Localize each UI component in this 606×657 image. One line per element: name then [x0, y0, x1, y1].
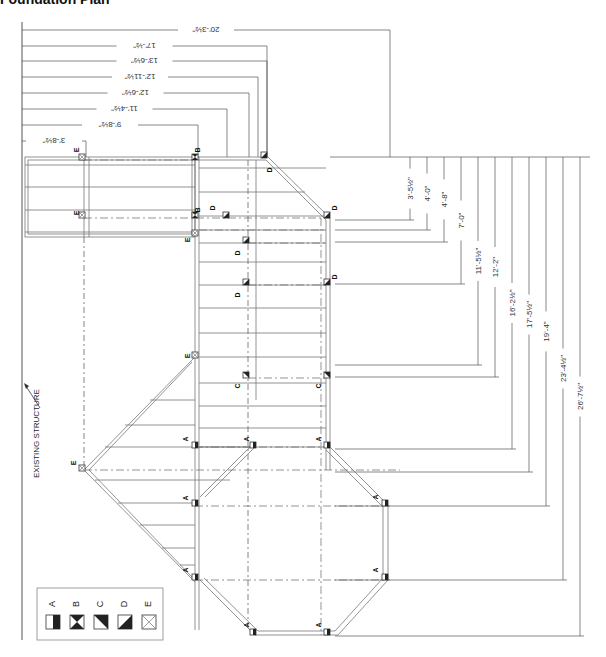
post-type-label: D	[209, 205, 216, 210]
post-A-icon	[192, 442, 198, 448]
dimension-label: 3'-5½"	[406, 177, 415, 200]
post-C-icon	[324, 372, 330, 378]
post-type-label: D	[266, 167, 273, 172]
post-A-icon	[324, 442, 330, 448]
dimension-label: 3'-8½"	[43, 136, 66, 145]
post-type-label: E	[73, 210, 80, 215]
post-D-icon	[243, 279, 249, 285]
dimension-label: 20'-3½"	[192, 25, 219, 34]
right-dimension: 23'-4½"	[335, 157, 568, 580]
post-B-icon	[70, 615, 84, 629]
post-A-icon	[250, 629, 256, 635]
post-E-icon	[142, 615, 156, 629]
post-type-label: A	[315, 436, 322, 441]
post-type-label: A	[372, 567, 379, 572]
dimension-label: 7'-0"	[457, 212, 466, 228]
dimension-label: 4'-0"	[423, 185, 432, 201]
post-A-icon	[46, 615, 60, 629]
dimension-label: 23'-4½"	[559, 355, 568, 382]
dimension-label: 12'-11½"	[124, 72, 155, 81]
post-symbols	[79, 152, 388, 635]
post-type-label: E	[70, 460, 77, 465]
right-dimension: 7'-0"	[335, 157, 466, 284]
right-dimension: 17'-5½"	[335, 157, 534, 472]
post-D-icon	[223, 212, 229, 218]
legend-key: D	[119, 600, 129, 607]
post-type-label: A	[315, 622, 322, 627]
post-B-icon	[192, 154, 198, 160]
dimension-label: 12'-2"	[491, 257, 500, 278]
legend-key: E	[143, 601, 153, 607]
post-D-icon	[261, 152, 267, 158]
post-C-icon	[94, 615, 108, 629]
post-type-label: E	[184, 353, 191, 358]
legend: ABCDE	[37, 588, 163, 640]
post-A-icon	[382, 574, 388, 580]
post-type-label: A	[182, 567, 189, 572]
post-type-label: D	[331, 274, 338, 279]
dimension-label: 11'-4½"	[111, 104, 138, 113]
existing-structure-callout: EXISTING STRUCTURE	[24, 383, 41, 478]
post-type-label: B	[194, 207, 201, 212]
top-dimension-lines: 20'-3½"17'-½"13'-6½"12'-11½"12'-6½"11'-4…	[22, 25, 390, 157]
svg-text:EXISTING STRUCTURE: EXISTING STRUCTURE	[32, 389, 41, 478]
dimension-label: 12'-6½"	[122, 88, 149, 97]
post-C-icon	[243, 372, 249, 378]
post-D-icon	[324, 279, 330, 285]
post-D-icon	[118, 615, 132, 629]
top-dimension: 12'-6½"	[22, 88, 249, 157]
dimension-label: 16'-2½"	[508, 289, 517, 316]
post-D-icon	[243, 237, 249, 243]
post-E-icon	[79, 465, 85, 471]
right-dimension: 19'-4"	[335, 157, 551, 506]
post-type-label: A	[243, 436, 250, 441]
post-D-icon	[324, 212, 330, 218]
post-type-label: C	[234, 383, 241, 388]
dimension-label: 9'-8½"	[99, 120, 122, 129]
top-dimension: 20'-3½"	[22, 25, 390, 157]
dimension-label: 13'-6½"	[131, 56, 158, 65]
post-type-label: E	[73, 147, 80, 152]
post-type-label: E	[184, 237, 191, 242]
post-type-label: D	[234, 292, 241, 297]
post-type-label: D	[234, 250, 241, 255]
foundation-plan-drawing: 20'-3½"17'-½"13'-6½"12'-11½"12'-6½"11'-4…	[0, 0, 606, 657]
post-type-label: A	[182, 436, 189, 441]
post-type-label: A	[182, 495, 189, 500]
dimension-label: 17'-5½"	[525, 301, 534, 328]
top-dimension: 3'-8½"	[22, 136, 86, 157]
post-type-label: D	[331, 205, 338, 210]
post-A-icon	[250, 442, 256, 448]
post-labels: EBDBDEDEDDDECCAAAEAAAAAA	[70, 147, 379, 627]
right-dimension: 4'-0"	[335, 157, 432, 230]
post-A-icon	[192, 500, 198, 506]
centerlines	[84, 160, 400, 635]
post-type-label: B	[194, 147, 201, 152]
right-dimension-lines: 3'-5½"4'-0"4'-8"7'-0"11'-5½"12'-2"16'-2½…	[330, 157, 590, 636]
deck-framing	[25, 157, 388, 635]
post-type-label: A	[243, 622, 250, 627]
dimension-label: 11'-5½"	[474, 248, 483, 275]
legend-key: C	[95, 600, 105, 607]
right-dimension: 3'-5½"	[335, 157, 415, 220]
dimension-label: 26'-7½"	[576, 383, 585, 410]
dimension-label: 19'-4"	[542, 321, 551, 342]
post-A-icon	[382, 500, 388, 506]
legend-key: B	[71, 601, 81, 607]
post-E-icon	[79, 154, 85, 160]
post-type-label: C	[315, 383, 322, 388]
post-A-icon	[192, 574, 198, 580]
dimension-label: 17'-½"	[133, 41, 156, 50]
legend-key: A	[47, 601, 57, 607]
post-E-icon	[192, 352, 198, 358]
post-A-icon	[324, 629, 330, 635]
post-E-icon	[192, 230, 198, 236]
post-type-label: A	[372, 494, 379, 499]
dimension-label: 4'-8"	[440, 191, 449, 207]
